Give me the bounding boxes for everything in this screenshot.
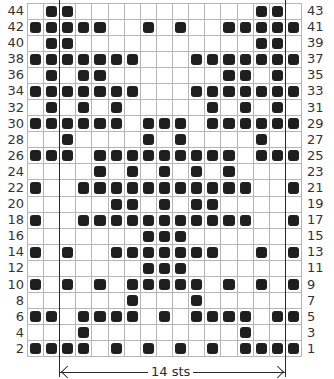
chart-cell-empty	[60, 325, 76, 341]
chart-cell-filled	[238, 20, 254, 36]
row-label-odd: 11	[307, 260, 329, 276]
chart-cell-empty	[205, 293, 221, 309]
chart-cell-filled	[189, 180, 205, 196]
chart-cell-empty	[141, 293, 157, 309]
chart-cell-filled	[60, 84, 76, 100]
chart-cell-empty	[270, 180, 286, 196]
row-label-even: 32	[2, 100, 24, 116]
chart-cell-filled	[60, 36, 76, 52]
chart-cell-filled	[205, 148, 221, 164]
chart-cell-empty	[205, 36, 221, 52]
chart-cell-filled	[109, 84, 125, 100]
chart-cell-filled	[270, 116, 286, 132]
chart-cell-empty	[125, 36, 141, 52]
chart-cell-empty	[157, 341, 173, 357]
chart-cell-filled	[238, 100, 254, 116]
row-label-odd: 31	[307, 100, 329, 116]
chart-cell-empty	[141, 36, 157, 52]
chart-cell-filled	[189, 52, 205, 68]
chart-cell-filled	[76, 52, 92, 68]
chart-cell-empty	[286, 164, 302, 180]
chart-cell-filled	[76, 213, 92, 229]
chart-cell-empty	[60, 180, 76, 196]
row-label-even: 4	[2, 325, 24, 341]
chart-cell-empty	[205, 325, 221, 341]
chart-cell-filled	[109, 116, 125, 132]
chart-cell-filled	[254, 148, 270, 164]
chart-cell-filled	[44, 4, 60, 20]
chart-cell-filled	[205, 341, 221, 357]
chart-cell-empty	[189, 261, 205, 277]
chart-cell-filled	[92, 164, 108, 180]
chart-cell-empty	[270, 261, 286, 277]
chart-cell-empty	[238, 164, 254, 180]
chart-cell-empty	[254, 100, 270, 116]
chart-cell-empty	[141, 197, 157, 213]
chart-cell-filled	[286, 309, 302, 325]
chart-cell-empty	[157, 36, 173, 52]
chart-cell-empty	[92, 36, 108, 52]
row-label-even: 22	[2, 180, 24, 196]
chart-cell-filled	[205, 180, 221, 196]
chart-cell-empty	[141, 68, 157, 84]
chart-cell-filled	[157, 309, 173, 325]
chart-cell-empty	[157, 20, 173, 36]
chart-cell-filled	[205, 309, 221, 325]
row-label-odd: 1	[307, 341, 329, 357]
chart-cell-empty	[92, 4, 108, 20]
chart-cell-filled	[270, 4, 286, 20]
chart-cell-empty	[28, 100, 44, 116]
chart-cell-filled	[109, 52, 125, 68]
chart-cell-filled	[270, 52, 286, 68]
chart-cell-empty	[173, 84, 189, 100]
chart-cell-empty	[238, 4, 254, 20]
chart-cell-empty	[221, 132, 237, 148]
chart-cell-empty	[44, 132, 60, 148]
chart-cell-empty	[238, 261, 254, 277]
chart-cell-empty	[189, 68, 205, 84]
chart-cell-filled	[221, 68, 237, 84]
chart-cell-empty	[254, 68, 270, 84]
chart-cell-empty	[286, 325, 302, 341]
chart-cell-empty	[109, 68, 125, 84]
chart-cell-empty	[28, 68, 44, 84]
chart-cell-empty	[60, 309, 76, 325]
chart-cell-filled	[141, 229, 157, 245]
row-label-even: 16	[2, 228, 24, 244]
chart-cell-filled	[28, 277, 44, 293]
chart-cell-filled	[76, 180, 92, 196]
chart-cell-empty	[221, 293, 237, 309]
chart-cell-filled	[109, 180, 125, 196]
arrowhead-right-icon	[271, 366, 284, 379]
row-label-odd: 35	[307, 67, 329, 83]
chart-cell-filled	[44, 20, 60, 36]
chart-cell-filled	[141, 20, 157, 36]
chart-cell-empty	[173, 100, 189, 116]
chart-cell-filled	[157, 261, 173, 277]
chart-cell-filled	[270, 68, 286, 84]
chart-cell-filled	[109, 341, 125, 357]
chart-cell-filled	[189, 197, 205, 213]
row-label-even: 30	[2, 116, 24, 132]
chart-cell-empty	[221, 197, 237, 213]
chart-cell-empty	[254, 180, 270, 196]
row-label-even: 40	[2, 35, 24, 51]
chart-cell-empty	[76, 132, 92, 148]
chart-cell-filled	[286, 245, 302, 261]
chart-cell-filled	[270, 100, 286, 116]
chart-cell-filled	[28, 341, 44, 357]
chart-cell-filled	[173, 245, 189, 261]
chart-cell-empty	[141, 100, 157, 116]
chart-cell-empty	[189, 100, 205, 116]
chart-cell-filled	[189, 309, 205, 325]
chart-cell-filled	[28, 148, 44, 164]
chart-cell-filled	[173, 261, 189, 277]
chart-cell-empty	[141, 4, 157, 20]
chart-cell-filled	[60, 116, 76, 132]
row-label-even: 10	[2, 277, 24, 293]
row-label-odd: 19	[307, 196, 329, 212]
chart-cell-empty	[254, 309, 270, 325]
chart-cell-empty	[60, 229, 76, 245]
chart-cell-empty	[44, 229, 60, 245]
chart-cell-empty	[173, 68, 189, 84]
